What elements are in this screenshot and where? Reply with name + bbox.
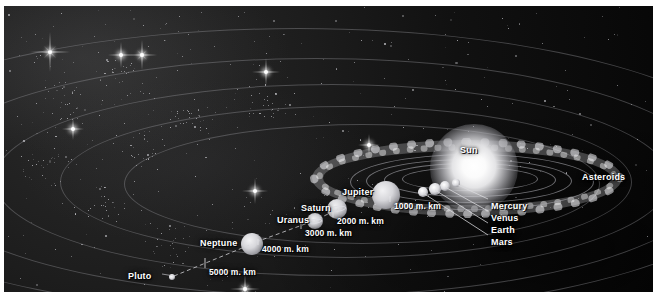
label-asteroids: Asteroids (582, 173, 625, 182)
scale-label-3: 3000 m. km (305, 229, 352, 238)
solar-system-illustration: Sun Asteroids MercuryVenusEarthMarsJupit… (0, 0, 657, 302)
label-mercury: Mercury (491, 202, 527, 211)
sun (430, 124, 518, 212)
space-background: Sun Asteroids MercuryVenusEarthMarsJupit… (4, 6, 653, 292)
planet-mars (418, 187, 428, 197)
label-venus: Venus (491, 214, 519, 223)
label-mars: Mars (491, 238, 513, 247)
label-pluto: Pluto (128, 272, 152, 281)
label-sun: Sun (460, 146, 478, 155)
label-jupiter: Jupiter (342, 188, 373, 197)
scale-label-4: 4000 m. km (262, 245, 309, 254)
planet-earth (429, 183, 440, 194)
label-earth: Earth (491, 226, 515, 235)
label-neptune: Neptune (200, 239, 237, 248)
inner-orbit-ellipses (4, 6, 653, 292)
label-saturn: Saturn (301, 204, 331, 213)
scale-label-2: 2000 m. km (337, 217, 384, 226)
label-uranus: Uranus (277, 216, 309, 225)
scale-label-1: 1000 m. km (394, 202, 441, 211)
planet-neptune (241, 233, 263, 255)
scale-label-5: 5000 m. km (209, 268, 256, 277)
